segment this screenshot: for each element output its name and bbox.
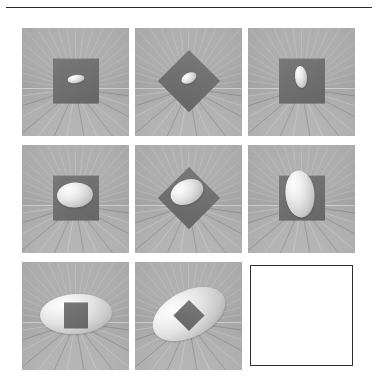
panel-4 [22, 145, 129, 253]
plane-square-small [64, 302, 88, 328]
panel-1 [22, 28, 129, 136]
empty-panel-frame [250, 265, 353, 366]
panel-7 [22, 262, 129, 370]
panel-3 [248, 28, 355, 136]
figure-root [0, 0, 378, 382]
panel-8 [135, 262, 242, 370]
panel-5 [135, 145, 242, 253]
top-divider-rule [6, 7, 372, 8]
panel-6 [248, 145, 355, 253]
panel-9 [248, 262, 355, 370]
panel-grid [22, 28, 356, 369]
panel-2 [135, 28, 242, 136]
